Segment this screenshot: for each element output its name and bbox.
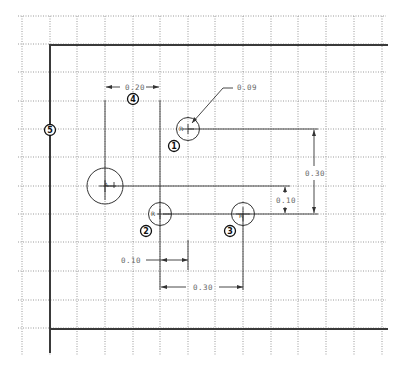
- callout-1-text: 1: [171, 142, 177, 151]
- callout-5[interactable]: 5: [45, 125, 56, 136]
- callout-1[interactable]: 1: [169, 141, 180, 152]
- dimension-text-0.30-vertical: 0.30: [305, 169, 325, 178]
- callout-2-text: 2: [143, 227, 149, 236]
- arrowhead: [182, 258, 188, 262]
- arrowhead: [237, 285, 243, 289]
- arrowhead: [283, 187, 287, 192]
- callout-2[interactable]: 2: [141, 226, 152, 237]
- arrowhead: [312, 207, 316, 213]
- arrowhead: [161, 285, 167, 289]
- arrowhead: [161, 258, 167, 262]
- arrowhead: [153, 85, 159, 89]
- callout-3[interactable]: 3: [225, 226, 236, 237]
- callout-4-text: 4: [130, 95, 136, 104]
- drawing-canvas: 0.20 0.09 0.30 0.10 0.10 0.30 A R: [0, 0, 408, 371]
- callout-3-text: 3: [227, 227, 233, 236]
- dimension-text-0.10-horizontal: 0.10: [121, 256, 141, 265]
- leader-line: [192, 88, 223, 123]
- hole-large-label: A: [104, 181, 109, 188]
- arrowhead: [312, 130, 316, 136]
- dimension-text-0.30-horizontal: 0.30: [193, 283, 213, 292]
- hole-3-label: R: [239, 212, 243, 219]
- callout-5-text: 5: [47, 126, 53, 135]
- callout-4[interactable]: 4: [128, 94, 139, 105]
- dimension-text-0.20: 0.20: [125, 83, 145, 92]
- dimension-text-0.09: 0.09: [237, 83, 257, 92]
- hole-1-label: R: [179, 125, 183, 132]
- arrowhead: [106, 85, 112, 89]
- part-border-top-left: [50, 45, 388, 353]
- dimension-text-0.10-vertical: 0.10: [276, 196, 296, 205]
- hole-2-label: R: [151, 210, 155, 217]
- arrowhead: [283, 208, 287, 213]
